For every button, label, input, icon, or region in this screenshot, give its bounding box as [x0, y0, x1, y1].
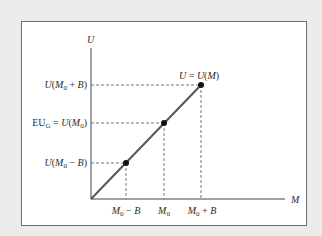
point-high [198, 82, 204, 88]
y-tick-mid: EUG = U(M0) [32, 117, 87, 130]
x-tick-high: M0 + B [187, 205, 217, 218]
utility-line [91, 85, 201, 199]
curve-label: U = U(M) [179, 70, 219, 82]
point-low [123, 160, 129, 166]
x-tick-mid: M0 [157, 205, 170, 218]
y-tick-low: U(M0 − B) [44, 157, 87, 170]
x-tick-low: M0 − B [111, 205, 141, 218]
point-mid [161, 120, 167, 126]
y-tick-high: U(M0 + B) [44, 79, 87, 92]
x-axis-label: M [290, 194, 300, 205]
y-axis-label: U [87, 34, 95, 45]
utility-chart: U M U = U(M) U(M0 + B) EUG = U(M0) U(M0 … [0, 0, 322, 236]
